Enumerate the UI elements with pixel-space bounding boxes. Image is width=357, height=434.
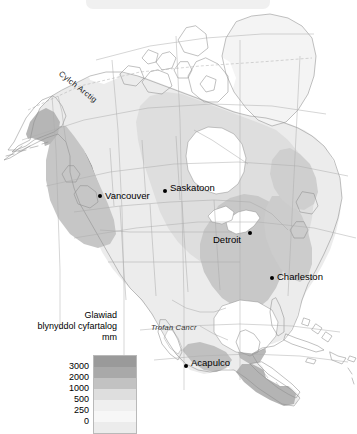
coastline-ellesmere <box>178 26 208 56</box>
city-label-charleston: Charleston <box>277 272 323 282</box>
coastline-puerto-rico <box>348 356 356 362</box>
gulf-of-alaska <box>14 138 46 162</box>
legend-tick-0: 0 <box>84 416 89 426</box>
city-label-detroit: Detroit <box>213 235 241 245</box>
rainfall-band-greenland <box>222 14 316 126</box>
legend-tick-500: 500 <box>74 394 89 404</box>
legend-tick-1000: 1000 <box>69 383 89 393</box>
city-dot-detroit <box>248 231 252 235</box>
coastline-bahamas-3 <box>322 332 332 342</box>
rainfall-legend: Glawiad blynyddol cyfartalog mm 3000 200… <box>25 310 143 344</box>
legend-swatch-250 <box>94 400 136 411</box>
legend-tick-2000: 2000 <box>69 372 89 382</box>
city-dot-vancouver <box>98 194 102 198</box>
city-dot-saskatoon <box>163 189 167 193</box>
legend-swatch-3000 <box>94 356 136 367</box>
city-dot-acapulco <box>184 364 188 368</box>
city-label-vancouver: Vancouver <box>105 191 150 201</box>
legend-unit-label: mm <box>25 332 117 343</box>
legend-swatch-0 <box>94 411 136 422</box>
legend-swatch-2000 <box>94 367 136 378</box>
city-dot-charleston <box>270 276 274 280</box>
city-label-acapulco: Acapulco <box>191 358 230 368</box>
legend-swatch-column <box>93 355 137 434</box>
legend-tick-250: 250 <box>74 405 89 415</box>
legend-title-line1: Glawiad <box>25 310 117 321</box>
legend-title: Glawiad blynyddol cyfartalog mm <box>25 310 117 343</box>
legend-title-line2: blynyddol cyfartalog <box>25 321 117 332</box>
coastline-lesser-antilles <box>348 368 354 384</box>
coastline-bahamas-1 <box>302 318 310 326</box>
legend-tick-3000: 3000 <box>69 361 89 371</box>
map-figure: Vancouver Saskatoon Detroit Charleston A… <box>0 0 357 434</box>
north-america-rainfall-map <box>0 0 357 434</box>
coastline-hispaniola <box>330 352 346 364</box>
coastline-arctic-isles-1 <box>156 52 176 70</box>
tropic-of-cancer-label: Trofan Cancr <box>151 324 197 332</box>
legend-swatch-base <box>94 422 136 433</box>
legend-swatch-1000 <box>94 378 136 389</box>
city-label-saskatoon: Saskatoon <box>170 183 215 193</box>
coastline-arctic-isles-2 <box>174 62 192 78</box>
coastline-arctic-isles-3 <box>142 50 158 64</box>
legend-swatch-500 <box>94 389 136 400</box>
